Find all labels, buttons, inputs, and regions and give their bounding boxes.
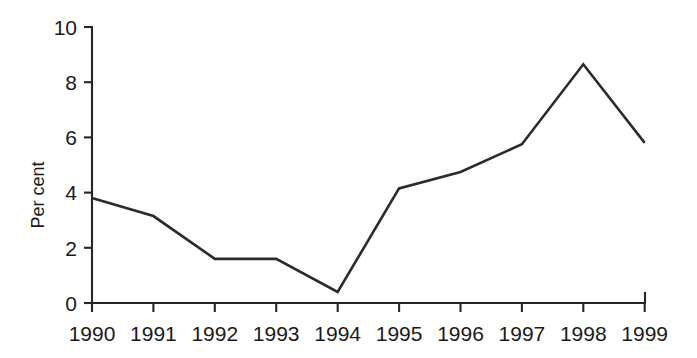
y-tick-label-10: 10 <box>54 16 77 39</box>
y-axis-title: Per cent <box>28 161 48 228</box>
data-series-line <box>92 64 645 292</box>
line-chart: Per cent 10 8 6 4 2 0 1990 1991 1992 <box>0 0 697 358</box>
y-tick-label-0: 0 <box>65 292 77 315</box>
y-tick-label-4: 4 <box>65 181 77 204</box>
x-tick-label-1999: 1999 <box>621 322 668 345</box>
x-tick-label-1992: 1992 <box>191 322 238 345</box>
x-axis-line <box>92 293 645 303</box>
x-tick-label-1990: 1990 <box>69 322 116 345</box>
x-tick-label-1996: 1996 <box>437 322 484 345</box>
x-tick-label-1991: 1991 <box>130 322 177 345</box>
y-tick-label-8: 8 <box>65 71 77 94</box>
x-tick-label-1994: 1994 <box>314 322 361 345</box>
x-tick-label-1993: 1993 <box>253 322 300 345</box>
chart-canvas: Per cent 10 8 6 4 2 0 1990 1991 1992 <box>0 0 697 358</box>
x-tick-label-1997: 1997 <box>499 322 546 345</box>
y-tick-label-6: 6 <box>65 126 77 149</box>
x-tick-label-1998: 1998 <box>560 322 607 345</box>
x-tick-label-1995: 1995 <box>376 322 423 345</box>
y-tick-label-2: 2 <box>65 237 77 260</box>
